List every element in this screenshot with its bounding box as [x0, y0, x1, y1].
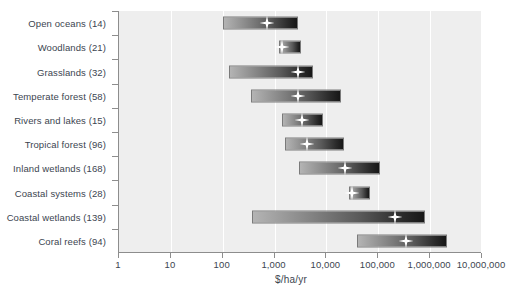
x-axis-tick [325, 253, 326, 258]
ecosystem-services-value-chart: Open oceans (14)Woodlands (21)Grasslands… [0, 0, 520, 298]
y-axis-label: Grasslands (32) [37, 66, 106, 77]
x-axis-tick-label: 10,000 [311, 259, 341, 270]
y-axis-label: Coastal wetlands (139) [7, 211, 106, 222]
value-range-bar [251, 89, 341, 102]
value-range-bar [223, 17, 298, 30]
gridline [430, 11, 431, 252]
x-axis-title: $/ha/yr [0, 274, 520, 285]
x-axis-tick-label: 1,000,000 [408, 259, 451, 270]
y-axis-label: Coastal systems (28) [15, 187, 106, 198]
x-axis-tick [170, 253, 171, 258]
y-axis-label: Coral reefs (94) [38, 235, 106, 246]
x-axis-tick [429, 253, 430, 258]
x-axis-tick-label: 1 [115, 259, 120, 270]
x-axis-tick [481, 253, 482, 258]
gridline [482, 11, 483, 252]
value-range-bar [349, 186, 371, 199]
plot-area [118, 11, 481, 253]
x-axis-tick-label: 10,000,000 [457, 259, 506, 270]
x-axis-tick [222, 253, 223, 258]
x-axis-tick-label: 1,000 [261, 259, 285, 270]
x-axis-tick-label: 100 [214, 259, 230, 270]
x-axis-tick [377, 253, 378, 258]
x-axis-tick-label: 100,000 [360, 259, 395, 270]
y-axis-label: Temperate forest (58) [13, 90, 106, 101]
y-axis-label: Woodlands (21) [38, 42, 106, 53]
x-axis-tick-label: 10 [165, 259, 176, 270]
value-range-bar [282, 113, 323, 126]
gridline [223, 11, 224, 252]
y-axis-label: Tropical forest (96) [25, 139, 106, 150]
y-axis-label: Open oceans (14) [28, 18, 106, 29]
x-axis-tick [118, 253, 119, 258]
y-axis-label: Inland wetlands (168) [13, 163, 106, 174]
value-range-bar [357, 234, 447, 247]
x-axis-title-label: $/ha/yr [275, 274, 307, 285]
x-axis-tick [274, 253, 275, 258]
gridline [171, 11, 172, 252]
value-range-bar [279, 41, 301, 54]
value-range-bar [285, 138, 344, 151]
value-range-bar [252, 210, 425, 223]
value-range-bar [299, 162, 381, 175]
y-axis-label: Rivers and lakes (15) [14, 114, 106, 125]
y-axis-labels: Open oceans (14)Woodlands (21)Grasslands… [0, 0, 114, 298]
value-range-bar [229, 65, 313, 78]
